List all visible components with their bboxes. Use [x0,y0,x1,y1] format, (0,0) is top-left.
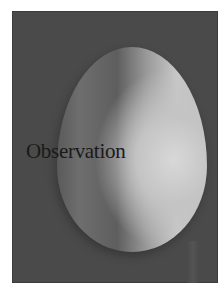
caption-text: Observation [26,139,125,164]
egg-stand-shadow [187,241,199,283]
